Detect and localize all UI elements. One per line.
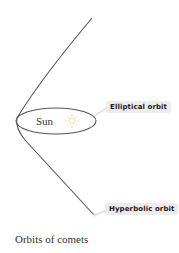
elliptical-orbit-label: Elliptical orbit	[106, 101, 171, 113]
hyperbolic-orbit-curve	[17, 18, 94, 215]
diagram-caption: Orbits of comets	[15, 233, 88, 245]
orbit-diagram: Sun	[0, 0, 179, 253]
hyperbolic-orbit-label: Hyperbolic orbit	[105, 203, 178, 215]
elliptical-orbit-curve	[16, 108, 96, 134]
sun-icon	[65, 114, 79, 128]
sun-label: Sun	[36, 115, 54, 127]
